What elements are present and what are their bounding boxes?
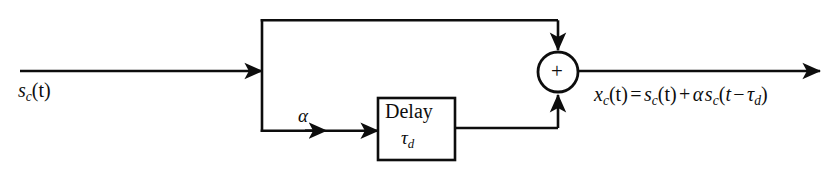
block-diagram-canvas: sc(t) α Delay τd + xc(t)=sc(t)+α sc((tt−… [0, 0, 833, 175]
output-equation-label: xc(t)=sc(t)+α sc((tt−τd) [594, 84, 768, 107]
input-signal-label: sc(t) [18, 80, 51, 103]
delay-block-parameter: τd [401, 128, 414, 151]
delay-block-title: Delay [385, 101, 433, 121]
adder-plus-sign: + [551, 61, 563, 82]
gain-alpha-label: α [298, 106, 308, 125]
